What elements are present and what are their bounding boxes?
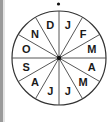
top-marker-dot [57,2,60,5]
segment-label-nov: N [31,28,39,40]
segment-label-may: M [78,76,87,88]
segment-label-jan: J [65,19,71,31]
segment-label-jun: J [65,85,71,97]
center-dot [57,56,61,60]
segment-label-aug: A [31,76,39,88]
segment-label-sep: S [23,61,30,73]
segment-label-oct: O [22,43,31,55]
month-wheel-diagram: J F M A M J J A S O N D [0,0,112,122]
segment-label-mar: M [87,43,96,55]
segment-label-feb: F [80,28,87,40]
segment-label-jul: J [47,85,53,97]
segment-label-dec: D [46,19,54,31]
segment-label-apr: A [88,61,96,73]
